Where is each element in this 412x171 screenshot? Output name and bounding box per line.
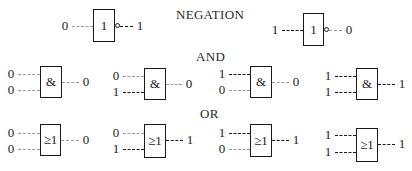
not-gate-2-output-line [329, 30, 342, 31]
or-gate-1-input-a: 0 [6, 126, 16, 139]
and-gate-4-input-a: 1 [323, 69, 333, 82]
or-gate-4-input-b: 1 [323, 145, 333, 158]
and-gate-2-input-b-line [123, 92, 144, 93]
and-gate-4-input-a-line [335, 76, 356, 77]
and-gate-4-input-b: 1 [323, 85, 333, 98]
and-gate-1-output: 0 [81, 75, 91, 88]
or-gate-1-input-b: 0 [6, 142, 16, 155]
and-gate-2-input-a: 0 [111, 69, 121, 82]
or-gate-4-box: ≥1 [356, 128, 378, 162]
or-gate-2-box: ≥1 [144, 124, 166, 158]
or-title: OR [200, 106, 219, 122]
not-gate-1-box: 1 [93, 9, 115, 42]
and-gate-3-input-a-line [229, 74, 250, 75]
or-gate-1-box: ≥1 [40, 124, 61, 156]
and-gate-2-output-line [166, 84, 182, 85]
or-gate-3-input-a-line [229, 133, 250, 134]
not-gate-1-input: 0 [60, 19, 70, 32]
and-gate-2-input-a-line [123, 76, 144, 77]
or-gate-2-input-b-line [123, 149, 144, 150]
not-gate-2-input: 1 [270, 23, 280, 36]
and-gate-2-output: 0 [184, 77, 194, 90]
or-gate-3-input-b: 0 [217, 142, 227, 155]
or-gate-4-output-line [378, 144, 395, 145]
or-gate-2-output: 1 [185, 133, 195, 146]
and-gate-2-input-b: 1 [111, 85, 121, 98]
not-gate-1-output-line [120, 26, 133, 27]
or-gate-1-output-line [61, 140, 79, 141]
and-gate-1-input-b: 0 [6, 83, 16, 96]
not-gate-2-output: 0 [344, 23, 354, 36]
or-gate-3-output-line [272, 140, 289, 141]
and-gate-4-output-line [378, 84, 395, 85]
and-gate-3-box: & [250, 66, 272, 98]
or-gate-4-output: 1 [397, 137, 407, 150]
not-gate-1-input-line [72, 26, 93, 27]
or-gate-2-input-a: 0 [111, 126, 121, 139]
and-title: AND [196, 49, 225, 65]
or-gate-4-input-a: 1 [323, 128, 333, 141]
or-gate-2-output-line [166, 140, 183, 141]
and-gate-3-input-b-line [229, 90, 250, 91]
or-gate-3-output: 1 [291, 133, 301, 146]
or-gate-1-output: 0 [81, 133, 91, 146]
and-gate-2-box: & [144, 68, 166, 100]
not-gate-2-box: 1 [303, 13, 324, 46]
and-gate-1-box: & [40, 66, 62, 98]
and-gate-1-output-line [62, 82, 79, 83]
and-gate-3-input-a: 1 [217, 67, 227, 80]
or-gate-3-input-b-line [229, 149, 250, 150]
and-gate-3-input-b: 0 [217, 83, 227, 96]
or-gate-1-input-a-line [18, 133, 40, 134]
or-gate-2-input-b: 1 [111, 142, 121, 155]
and-gate-4-input-b-line [335, 92, 356, 93]
and-gate-4-box: & [356, 68, 378, 100]
negation-title: NEGATION [176, 7, 244, 23]
or-gate-2-input-a-line [123, 133, 144, 134]
and-gate-3-output: 0 [291, 75, 301, 88]
and-gate-1-input-b-line [18, 90, 40, 91]
or-gate-1-input-b-line [18, 149, 40, 150]
not-gate-1-output: 1 [135, 19, 145, 32]
and-gate-4-output: 1 [397, 77, 407, 90]
or-gate-4-input-a-line [335, 135, 356, 136]
and-gate-3-output-line [272, 82, 289, 83]
and-gate-1-input-a-line [18, 74, 40, 75]
or-gate-3-box: ≥1 [250, 124, 272, 157]
not-gate-2-input-line [282, 30, 303, 31]
or-gate-3-input-a: 1 [217, 126, 227, 139]
or-gate-4-input-b-line [335, 152, 356, 153]
and-gate-1-input-a: 0 [6, 67, 16, 80]
